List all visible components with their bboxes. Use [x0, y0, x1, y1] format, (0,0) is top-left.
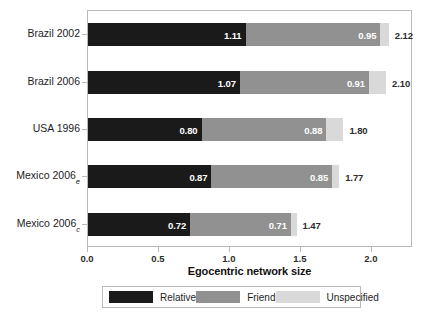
legend-swatch-relative [109, 291, 153, 303]
x-axis-tick-label: 0.5 [151, 253, 164, 264]
legend-item-unspecified[interactable]: Unspecified [276, 291, 379, 303]
bar-segment-value: 0.87 [189, 171, 207, 182]
bar-segment-unspecified[interactable]: 1.80 [326, 118, 343, 141]
y-axis-tick-label: USA 1996 [33, 117, 80, 140]
x-axis-tick-label: 1.5 [293, 253, 306, 264]
bar-segment-value: 0.72 [168, 219, 186, 230]
chart-figure: Brazil 2002Brazil 2006USA 1996Mexico 200… [0, 0, 426, 318]
legend-label: Friend [247, 292, 275, 303]
bar-segment-relative[interactable]: 0.72 [88, 213, 190, 236]
bar-segment-value: 0.91 [347, 77, 365, 88]
bar-segment-unspecified[interactable]: 2.12 [380, 23, 389, 46]
bar-row[interactable]: 0.720.711.47 [88, 213, 297, 236]
bar-segment-relative[interactable]: 0.87 [88, 165, 211, 188]
y-axis-tick-label-subscript: c [76, 225, 80, 234]
x-axis-tick-mark [300, 247, 301, 252]
bar-segment-unspecified[interactable]: 2.10 [369, 71, 386, 94]
plot-area: 1.110.952.121.070.912.100.800.881.800.87… [87, 10, 412, 247]
legend-swatch-unspecified [276, 291, 320, 303]
bar-segment-friend[interactable]: 0.95 [246, 23, 381, 46]
bar-segment-value: 0.88 [304, 124, 322, 135]
bar-row[interactable]: 1.070.912.10 [88, 71, 386, 94]
bar-row[interactable]: 1.110.952.12 [88, 23, 389, 46]
x-axis-tick-mark [87, 247, 88, 252]
bar-segment-friend[interactable]: 0.85 [211, 165, 332, 188]
bar-row[interactable]: 0.870.851.77 [88, 165, 339, 188]
bar-segment-friend[interactable]: 0.88 [202, 118, 327, 141]
y-axis-tick-label: Brazil 2002 [27, 22, 80, 45]
y-axis-tick-label: Mexico 2006c [17, 212, 80, 235]
bar-total-value: 2.12 [395, 29, 413, 40]
bar-segment-value: 1.07 [218, 77, 236, 88]
x-axis-tick-mark [229, 247, 230, 252]
bar-segment-value: 1.11 [224, 29, 242, 40]
bar-segment-relative[interactable]: 0.80 [88, 118, 202, 141]
y-axis-tick-label-subscript: e [76, 177, 80, 186]
bar-segment-value: 0.71 [269, 219, 287, 230]
bar-total-value: 2.10 [392, 77, 410, 88]
bar-total-value: 1.47 [303, 219, 321, 230]
legend-swatch-friend [196, 291, 240, 303]
bar-segment-friend[interactable]: 0.91 [240, 71, 369, 94]
x-axis-title: Egocentric network size [87, 265, 412, 277]
y-axis-tick-label: Brazil 2006 [27, 70, 80, 93]
legend-label: Unspecified [327, 292, 379, 303]
bar-total-value: 1.80 [349, 124, 367, 135]
x-axis-tick-label: 1.0 [222, 253, 235, 264]
legend-label: Relative [160, 292, 196, 303]
x-axis-tick-label: 0.0 [80, 253, 93, 264]
x-axis-tick-mark [158, 247, 159, 252]
bar-segment-relative[interactable]: 1.07 [88, 71, 240, 94]
bar-row[interactable]: 0.800.881.80 [88, 118, 343, 141]
bar-segment-value: 0.80 [179, 124, 197, 135]
bar-segment-unspecified[interactable]: 1.77 [332, 165, 339, 188]
bar-segment-value: 0.95 [358, 29, 376, 40]
bar-total-value: 1.77 [345, 171, 363, 182]
legend-item-friend[interactable]: Friend [196, 291, 275, 303]
chart-legend: RelativeFriendUnspecified [102, 286, 361, 308]
bar-segment-unspecified[interactable]: 1.47 [291, 213, 297, 236]
y-axis-tick-label: Mexico 2006e [16, 164, 80, 187]
x-axis-tick-mark [371, 247, 372, 252]
bar-segment-value: 0.85 [310, 171, 328, 182]
x-axis-tick-label: 2.0 [364, 253, 377, 264]
legend-item-relative[interactable]: Relative [109, 291, 196, 303]
bar-segment-relative[interactable]: 1.11 [88, 23, 246, 46]
bar-segment-friend[interactable]: 0.71 [190, 213, 291, 236]
